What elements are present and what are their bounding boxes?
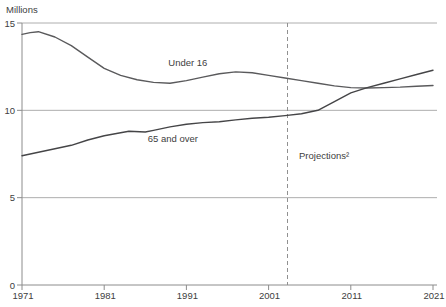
axes — [22, 23, 437, 285]
y-tick-label-5: 5 — [10, 192, 15, 203]
x-tick-label-1981: 1981 — [95, 290, 116, 301]
under-16-series-label: Under 16 — [168, 57, 207, 68]
65-and-over-series-label: 65 and over — [148, 133, 198, 144]
line-chart-canvas: 051015 197119811991200120112021 Millions… — [0, 0, 446, 307]
x-tick-label-2001: 2001 — [259, 290, 280, 301]
population-chart: 051015 197119811991200120112021 Millions… — [0, 0, 446, 307]
65-and-over-line — [22, 70, 433, 156]
x-tick-label-2011: 2011 — [342, 290, 362, 301]
x-axis-ticks: 197119811991200120112021 — [12, 285, 444, 301]
data-series — [22, 32, 433, 156]
y-axis-unit-label: Millions — [6, 4, 38, 15]
x-tick-label-1991: 1991 — [177, 290, 198, 301]
x-tick-label-2021: 2021 — [423, 290, 444, 301]
projections-label: Projections² — [299, 150, 349, 161]
y-tick-label-0: 0 — [10, 280, 15, 291]
y-tick-label-10: 10 — [4, 105, 15, 116]
y-axis-ticks: 051015 — [4, 18, 22, 291]
y-tick-label-15: 15 — [4, 18, 15, 29]
under-16-line — [22, 32, 433, 88]
gridlines — [22, 23, 437, 198]
x-tick-label-1971: 1971 — [12, 290, 33, 301]
